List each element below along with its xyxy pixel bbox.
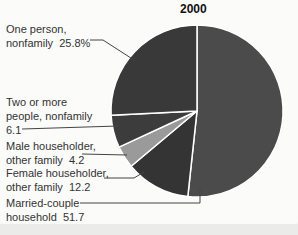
leader-one-person <box>90 40 134 60</box>
label-female-householder: Female householder, other family 12.2 <box>6 166 109 194</box>
slice-one-person <box>111 25 197 115</box>
label-one-person: One person, nonfamily 25.8% <box>6 22 90 50</box>
slice-married-couple <box>188 25 283 197</box>
label-two-or-more: Two or more people, nonfamily 6.1 <box>6 95 92 137</box>
label-married-couple: Married-couple household 51.7 <box>6 196 84 224</box>
label-male-householder: Male householder, other family 4.2 <box>6 139 96 167</box>
